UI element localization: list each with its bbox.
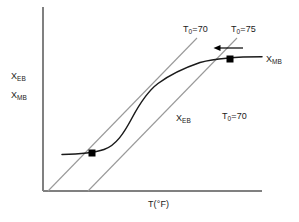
annotation-xmb-right: XMB	[266, 55, 282, 64]
annotation-t0-70-mid-main: T	[222, 111, 228, 121]
annotation-t0-70-top-sub: 0	[189, 28, 193, 35]
marker-upper-steady-state	[227, 56, 234, 63]
figure-root: XEB XMB T0=70 T0=75 XMB XEB T0=70 T(°F)	[0, 0, 299, 222]
equilibrium-curve-xeb	[62, 57, 262, 155]
x-axis-label: T(°F)	[148, 200, 169, 209]
shift-arrow-head	[214, 45, 221, 51]
annotation-xeb-mid-sub: EB	[182, 117, 191, 124]
axes-group	[43, 7, 262, 191]
annotation-t0-75-top-sub: 0	[237, 28, 241, 35]
annotation-t0-75-top: T0=75	[231, 25, 256, 34]
y-axis-label-xeb-sub: EB	[17, 75, 26, 82]
y-axis-label-xmb-sub: MB	[17, 94, 27, 101]
annotation-t0-70-top-main: T	[183, 24, 189, 34]
annotation-xmb-right-sub: MB	[272, 58, 282, 65]
annotation-t0-75-top-eq: =75	[240, 24, 256, 34]
shift-arrow	[214, 45, 244, 51]
marker-lower-steady-state	[89, 150, 96, 157]
annotation-t0-70-top: T0=70	[183, 25, 208, 34]
annotation-t0-70-mid-eq: =70	[231, 111, 247, 121]
y-axis-label-xeb: XEB	[11, 72, 26, 81]
annotation-xeb-mid: XEB	[176, 114, 191, 123]
energy-balance-line-t0-70	[48, 38, 197, 191]
annotation-t0-70-mid-sub: 0	[228, 115, 232, 122]
steady-state-markers-group	[89, 56, 234, 157]
y-axis-label-xmb: XMB	[11, 91, 27, 100]
annotation-t0-70-mid: T0=70	[222, 112, 247, 121]
annotation-t0-70-top-eq: =70	[192, 24, 208, 34]
energy-balance-line-t0-75	[88, 38, 237, 191]
annotation-t0-75-top-main: T	[231, 24, 237, 34]
